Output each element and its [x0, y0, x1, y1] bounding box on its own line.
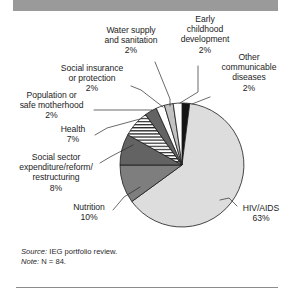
figure-container: Water supply and sanitation 2% Early chi…: [0, 0, 292, 295]
label-social-sector-expenditure: Social sector expenditure/reform/ restru…: [13, 152, 99, 193]
note-line: Note: N = 84.: [21, 257, 117, 267]
bottom-divider: [16, 287, 278, 288]
label-nutrition: Nutrition 10%: [64, 202, 114, 222]
source-note-block: Source: IEG portfolio review. Note: N = …: [21, 247, 117, 267]
source-text: IEG portfolio review.: [47, 247, 117, 256]
label-water-supply-and-sanitation: Water supply and sanitation 2%: [94, 25, 168, 56]
note-prefix: Note:: [21, 257, 39, 266]
label-health: Health 7%: [52, 124, 94, 144]
source-line: Source: IEG portfolio review.: [21, 247, 117, 257]
label-other-communicable-diseases: Other communicable diseases 2%: [212, 52, 286, 93]
label-population-or-safe-motherhood: Population or safe motherhood 2%: [9, 90, 94, 121]
source-prefix: Source:: [21, 247, 47, 256]
label-hiv-aids: HIV/AIDS 63%: [236, 203, 286, 223]
label-early-childhood-development: Early childhood development 2%: [174, 14, 236, 55]
note-text: N = 84.: [39, 257, 66, 266]
